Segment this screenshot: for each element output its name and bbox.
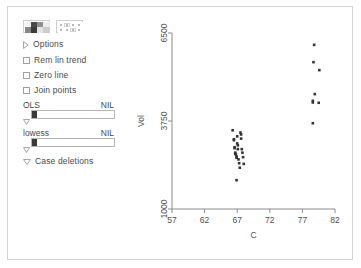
- case-deletions-label: Case deletions: [35, 155, 93, 168]
- scatter-point: [312, 101, 315, 104]
- scatter-point: [242, 163, 245, 166]
- slider-lowess[interactable]: lowess NIL: [23, 128, 115, 148]
- scatter-point: [235, 179, 238, 182]
- slider-ols-header: OLS NIL: [23, 100, 115, 110]
- x-axis-label: C: [250, 230, 256, 240]
- checkbox-zero-line[interactable]: Zero line: [23, 69, 68, 82]
- x-axis-tick-label: 72: [265, 215, 275, 225]
- scatter-plot-canvas[interactable]: 100037506500576267727782CVol: [122, 15, 346, 253]
- slider-ols-value: NIL: [101, 100, 114, 110]
- scatter-point: [238, 162, 241, 165]
- scatter-point: [240, 148, 243, 151]
- checkbox-rem-lin-trend[interactable]: Rem lin trend: [23, 54, 87, 67]
- checkbox-label: Join points: [34, 84, 76, 97]
- scatter-point: [313, 93, 316, 96]
- scatter-point: [242, 156, 245, 159]
- scatter-point: [237, 144, 240, 147]
- scatter-point: [233, 139, 236, 142]
- scatter-point: [231, 129, 234, 132]
- y-axis-label: Vol: [136, 115, 146, 127]
- scatter-point: [317, 101, 320, 104]
- options-disclosure[interactable]: Options: [23, 38, 63, 51]
- checkbox-box-icon[interactable]: [23, 57, 30, 64]
- slider-lowess-value: NIL: [101, 128, 114, 138]
- scatter-plot: 100037506500576267727782CVol: [122, 15, 346, 253]
- scatter-point: [239, 166, 242, 169]
- triangle-down-icon[interactable]: [23, 139, 30, 145]
- checkbox-box-icon[interactable]: [23, 87, 30, 94]
- y-axis-tick-label: 3750: [159, 111, 169, 130]
- slider-lowess-label: lowess: [23, 128, 49, 138]
- scatter-point: [312, 122, 315, 125]
- scatter-series: [231, 44, 320, 182]
- x-axis-tick-label: 82: [330, 215, 340, 225]
- scatter-point: [313, 44, 316, 47]
- slider-ols-body[interactable]: [23, 110, 115, 120]
- triangle-down-icon: [23, 159, 31, 165]
- scatter-point: [233, 147, 236, 150]
- y-axis-tick-label: 6500: [159, 23, 169, 42]
- sidebar-toolbar: [23, 20, 83, 33]
- slider-ols-label: OLS: [23, 100, 40, 110]
- triangle-down-icon[interactable]: [23, 111, 30, 117]
- scatter-point: [241, 151, 244, 154]
- scatter-point: [312, 61, 315, 64]
- checkbox-label: Zero line: [34, 69, 68, 82]
- x-axis-tick-label: 77: [298, 215, 308, 225]
- checkbox-label: Rem lin trend: [34, 54, 87, 67]
- checkbox-box-icon[interactable]: [23, 72, 30, 79]
- slider-lowess-header: lowess NIL: [23, 128, 115, 138]
- scatter-point: [318, 69, 321, 72]
- options-label: Options: [33, 38, 63, 51]
- x-axis-tick-label: 67: [232, 215, 242, 225]
- scatter-point: [240, 133, 243, 136]
- slider-lowess-fill: [32, 139, 37, 146]
- plot-panel: Options Rem lin trend Zero line Join poi…: [7, 6, 353, 260]
- checkbox-join-points[interactable]: Join points: [23, 84, 76, 97]
- scatter-point: [236, 135, 239, 138]
- x-axis-tick-label: 62: [200, 215, 210, 225]
- slider-ols-track[interactable]: [31, 110, 115, 119]
- scatter-point: [237, 158, 240, 161]
- scatter-point: [237, 148, 240, 151]
- slider-ols-fill: [32, 111, 37, 118]
- x-axis-tick-label: 57: [167, 215, 177, 225]
- triangle-right-icon: [23, 41, 29, 49]
- scatter-point: [240, 137, 243, 140]
- dotted-grid-icon[interactable]: [56, 20, 83, 33]
- slider-lowess-track[interactable]: [31, 138, 115, 147]
- case-deletions-disclosure[interactable]: Case deletions: [23, 155, 93, 168]
- grid-pattern-icon[interactable]: [23, 20, 50, 33]
- slider-ols[interactable]: OLS NIL: [23, 100, 115, 120]
- controls-sidebar: Options Rem lin trend Zero line Join poi…: [16, 15, 122, 253]
- slider-lowess-body[interactable]: [23, 138, 115, 148]
